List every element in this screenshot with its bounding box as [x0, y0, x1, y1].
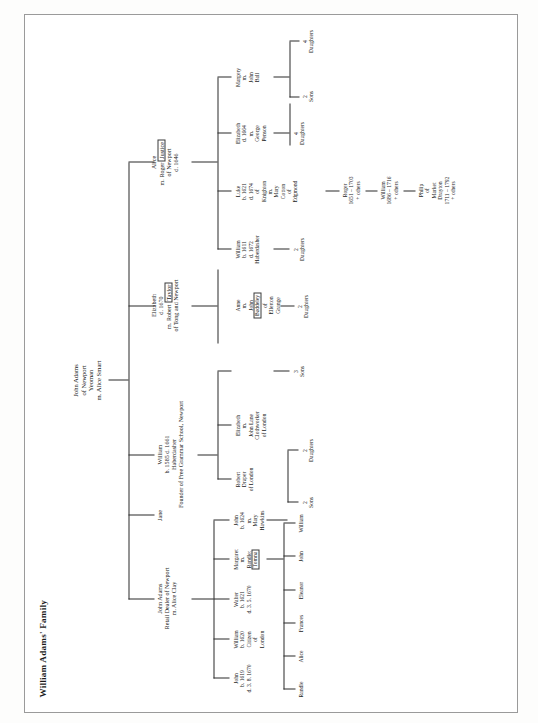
gen4-eleanor: Eleanor: [298, 571, 304, 611]
descent-roger-1651: Roger 1651 – 1703 + others: [342, 164, 361, 218]
g3n4-boxed-surname: Tomna: [252, 549, 260, 569]
connector-g4a-drop-5: [284, 556, 296, 557]
gen3-elizabeth-d1664: Elizabeth d. 1664 m. George Penson: [235, 109, 267, 159]
gen4-count-3-sons: 3 Sons: [293, 354, 306, 390]
family-tree-canvas: William Adams' Family John Adams of Newp…: [26, 15, 518, 712]
connector-g3a-drop-3: [214, 599, 230, 600]
connector-gen2-drop-2: [129, 515, 155, 516]
root-john-adams: John Adams of Newport Yeoman m. Alice Sm…: [72, 326, 102, 436]
g3n10-line-10: Edgmond: [292, 167, 298, 217]
connector-g3d-drop-1: [218, 249, 232, 250]
g2n3-line-1: William: [157, 384, 164, 526]
g2n1-line-1: John Adams: [157, 544, 164, 654]
g2n4-line-1: Elizabeth: [151, 244, 158, 368]
connector-g3d-drop-3: [218, 133, 232, 134]
connector-g2n4-drop: [192, 306, 218, 307]
connector-g3n7-drop: [274, 371, 290, 372]
connector-g3n11-drop: [274, 133, 290, 134]
connector-g4-spine-d: [290, 42, 291, 98]
g2n3-line-3: Haberdasher: [170, 384, 177, 526]
g2n4-line-2: d. 1670: [157, 244, 164, 368]
g2n1-line-3: m. Alice Clay: [170, 544, 177, 654]
g2n5-line-2-wrap: m. Roger Justice: [157, 106, 165, 220]
gen4-count-2-daughters-a: 2 Daughters: [302, 428, 315, 474]
connector-g4a-drop-4: [284, 590, 296, 591]
connector-g4d-drop-2: [290, 41, 300, 42]
connector-g3-spine-c: [218, 270, 219, 344]
g3n6-line-3: of London: [247, 455, 253, 505]
connector-g3b-drop-2: [218, 425, 232, 426]
connector-g2n1-drop: [192, 599, 214, 600]
connector-g3-spine-a: [214, 521, 215, 679]
connector-g3-spine-d: [218, 78, 219, 250]
g2n4-line-3: m. Robert: [165, 305, 171, 329]
connector-g4-spine-b: [288, 451, 289, 503]
connector-g4a-drop-6: [284, 523, 296, 524]
gen3-robert-draper: Robert Draper of London: [235, 455, 254, 505]
page-title: William Adams' Family: [38, 600, 48, 697]
descent-philip-others: + others: [449, 164, 455, 218]
connector-g3n8-drop: [281, 306, 295, 307]
gen4-count-2-sons-b: 2 Sons: [302, 79, 315, 115]
g2n5-line-1: Alice: [151, 106, 158, 220]
connector-g3a-drop-1: [214, 678, 230, 679]
root-line-1: John Adams: [72, 326, 80, 436]
g3n7-line-5: of London: [260, 401, 266, 451]
g4-2daughters-b-label: Daughters: [303, 284, 309, 330]
g4-eleanor-label: Eleanor: [298, 571, 304, 611]
g2n5-line-3: of Newport: [166, 106, 173, 220]
g2n5-line-2: m. Roger: [158, 163, 164, 186]
connector-g4d-drop-1: [290, 97, 300, 98]
connector-descent-3: [404, 191, 416, 192]
g3n12-line-4: Ball: [254, 53, 260, 103]
connector-g4b-drop-1: [288, 502, 299, 503]
connector-g3n4-drop: [267, 559, 284, 560]
connector-g3d-drop-2: [218, 191, 232, 192]
gen3-margery-m-john-ball: Margery m. John Ball: [235, 53, 261, 103]
connector-g3-spine-b: [218, 372, 219, 480]
g2n3-line-4: Founder of Free Grammar School, Newport: [177, 384, 184, 526]
gen4-count-4-daughters-b: 4 Daughters: [302, 24, 315, 60]
gen3-william-b1611: William b. 1611 d. 1672 Haberdasher: [235, 225, 261, 275]
page-sheet-border: William Adams' Family John Adams of Newp…: [24, 14, 518, 713]
g3n11-line-5: Penson: [260, 109, 266, 159]
descent-philip-market-drayton: Philip of Market Drayton 1711 – 1792 + o…: [418, 164, 456, 218]
gen2-elizabeth-d1670: Elizabeth d. 1670 m. Robert Taylor of To…: [151, 244, 180, 368]
root-line-4: m. Alice Smart: [94, 326, 102, 436]
g4-4daughters-label: Daughters: [299, 111, 305, 157]
g2n5-line-4: d. 1646: [173, 106, 180, 220]
g3n8-boxed-surname: Baddeley: [254, 292, 262, 318]
g2n1-line-2: Retail Dealer of Newport: [163, 544, 170, 654]
g4-2daughters-c-label: Daughters: [299, 227, 305, 273]
gen4-count-2-daughters-c: 2 Daughters: [293, 227, 306, 273]
g3n9-line-4: Haberdasher: [254, 225, 260, 275]
gen2-william-b1585: William b. 1585 d. 1661 Haberdasher Foun…: [157, 384, 185, 526]
g2n5-boxed-surname: Justice: [157, 140, 165, 162]
connector-g4a-drop-1: [284, 689, 296, 690]
connector-g2n3-drop: [198, 455, 218, 456]
connector-gen2-spine: [129, 163, 130, 600]
g3n2-line-5: London: [258, 615, 264, 665]
g3n8-boxed-wrap: Baddeley: [254, 280, 262, 332]
root-line-3: Yeoman: [87, 326, 95, 436]
connector-g4a-drop-2: [284, 656, 296, 657]
connector-descent-1: [326, 191, 340, 192]
gen2-alice-m-roger: Alice m. Roger Justice of Newport d. 164…: [151, 106, 180, 220]
g2n4-boxed-surname: Taylor: [164, 282, 172, 303]
descent-william-others: + others: [392, 164, 398, 218]
gen4-count-2-daughters-b: 2 Daughters: [297, 284, 310, 330]
gen3-elizabeth-m-john-lane: Elizabeth m. John Lane Clothworker of Lo…: [235, 401, 267, 451]
gen2-john-adams-retail-dealer: John Adams Retail Dealer of Newport m. A…: [157, 544, 178, 654]
connector-g4b-drop-2: [288, 450, 299, 451]
connector-gen2-drop-3: [129, 455, 155, 456]
connector-g3a-drop-2: [214, 639, 230, 640]
connector-g3b-drop-3: [218, 371, 232, 372]
connector-g3n9-drop: [274, 249, 290, 250]
connector-g3n12-drop: [274, 77, 290, 78]
g2n4-line-3-wrap: m. Robert Taylor: [164, 244, 172, 368]
descent-roger-others: + others: [354, 164, 360, 218]
connector-g4-spine-a: [284, 524, 285, 690]
g4-4daughters-b-label: Daughters: [308, 24, 314, 60]
connector-g2n5-drop: [192, 162, 218, 163]
connector-g3a-drop-5: [214, 520, 230, 521]
